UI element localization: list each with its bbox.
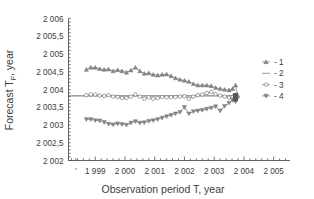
data-point [93,93,97,97]
y-tick-label: 2 004 [43,86,64,95]
data-point [102,94,106,98]
data-point [160,95,164,99]
forecast-convergence-chart: 2 0022 002,52 0032 003,52 0042 004,52 00… [0,0,314,199]
data-point [218,109,222,113]
data-point [169,96,173,100]
x-tick-label: 2 000 [115,167,136,176]
data-point [218,94,222,98]
data-point [89,93,93,97]
data-point [147,96,151,100]
data-point [227,101,231,105]
data-point [183,94,187,98]
data-point [223,95,227,99]
data-point [205,91,209,95]
convergence-marker [233,93,238,102]
y-tick-label: 2 005,5 [36,32,64,41]
y-tick-label: 2 002 [43,157,64,166]
data-point [98,94,102,98]
x-tick-label: 2 002 [174,167,195,176]
data-point [151,97,155,101]
chart-axes [69,19,291,161]
data-point [174,95,178,99]
y-tick-label: 2 006 [43,15,64,24]
legend-marker-circle-icon [264,83,268,87]
data-point [115,68,119,72]
x-tick-label: 2 001 [144,167,165,176]
legend-label-2: - 2 [274,69,284,78]
y-tick-label: 2 004,5 [36,68,64,77]
data-point [133,65,137,69]
data-point [173,76,177,80]
data-point [111,123,115,127]
data-point [165,96,169,100]
data-point [192,95,196,99]
data-point [178,95,182,99]
data-point [85,93,89,97]
x-tick-label: 2 003 [204,167,225,176]
data-point [187,112,191,116]
data-point [227,96,231,100]
data-point [120,96,124,100]
data-point [107,93,111,97]
series-3 [85,90,240,100]
legend-label-4: - 4 [274,92,284,101]
data-point [143,97,147,101]
series-4 [84,97,239,127]
x-tick-label: 1 999 [85,167,106,176]
y-tick-label: 2 003 [43,121,64,130]
data-point [187,97,191,101]
data-point [124,123,128,127]
data-point [201,93,205,97]
data-point [134,93,138,97]
data-point [84,68,88,72]
data-point [214,92,218,96]
data-point [233,83,237,87]
data-point [264,83,268,87]
series-line [86,98,237,125]
data-point [129,68,133,72]
data-point [129,121,133,125]
data-point [156,96,160,100]
data-point [191,110,195,114]
data-point [209,90,213,94]
y-tick-label: 2 003,5 [36,103,64,112]
data-point [129,95,133,99]
x-tick-label: 2 004 [234,167,255,176]
data-point [191,82,195,86]
series-1 [84,65,239,96]
data-point [196,93,200,97]
data-point [116,95,120,99]
legend-label-3: - 3 [274,81,284,90]
y-tick-label: 2 005 [43,50,64,59]
x-tick-label-prime: ' [75,167,77,176]
data-point [138,95,142,99]
data-point [125,96,129,100]
series-line [86,67,237,94]
x-tick-label: 2 005 [263,167,284,176]
y-tick-label: 2 002,5 [36,139,64,148]
data-point [111,95,115,99]
legend-label-1: - 1 [274,58,284,67]
chart-svg: 2 0022 002,52 0032 003,52 0042 004,52 00… [0,0,314,199]
